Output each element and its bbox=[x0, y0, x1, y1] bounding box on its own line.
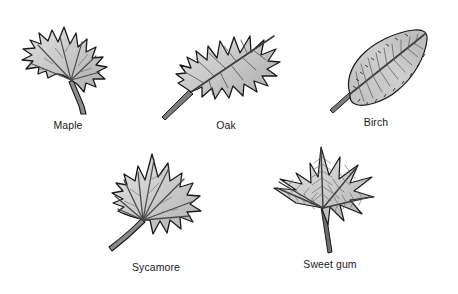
maple-blade bbox=[22, 27, 107, 92]
leaf-label-birch: Birch bbox=[326, 116, 426, 128]
leaf-illustration-birch bbox=[326, 24, 438, 116]
leaf-illustration-maple bbox=[8, 14, 123, 118]
leaf-label-sycamore: Sycamore bbox=[96, 261, 216, 273]
leaf-illustration-oak bbox=[156, 10, 284, 122]
leaf-label-sweetgum: Sweet gum bbox=[270, 258, 390, 270]
leaf-label-maple: Maple bbox=[18, 119, 118, 131]
leaf-identification-figure: Maple bbox=[0, 0, 458, 294]
birch-stem bbox=[330, 93, 352, 113]
leaf-label-oak: Oak bbox=[176, 119, 276, 131]
leaf-illustration-sycamore bbox=[96, 141, 216, 261]
leaf-illustration-sweetgum bbox=[266, 141, 384, 259]
sycamore-stem bbox=[109, 219, 145, 251]
oak-stem bbox=[162, 90, 193, 120]
